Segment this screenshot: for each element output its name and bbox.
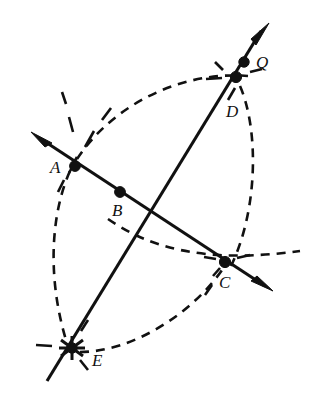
arc-e-to-c bbox=[80, 270, 222, 352]
arc-stub-a-upright bbox=[102, 108, 111, 120]
arc-stub-a-up bbox=[62, 92, 66, 104]
arc-stub-e-left bbox=[36, 345, 52, 346]
geometry-figure: A B C D E Q bbox=[0, 0, 314, 399]
arc-stub-c-left bbox=[204, 257, 216, 259]
line-abc-arrow-end bbox=[251, 276, 273, 291]
arc-stub-a-upright2 bbox=[85, 131, 94, 147]
point-label-b: B bbox=[112, 202, 122, 219]
line-edq bbox=[47, 31, 261, 381]
arc-stub-c-upright bbox=[237, 255, 250, 258]
line-edq-arrow-start bbox=[251, 23, 269, 45]
point-label-e: E bbox=[92, 352, 102, 369]
arc-a-to-d bbox=[69, 75, 248, 173]
point-marker-d bbox=[230, 71, 241, 82]
arc-stub-d-down bbox=[228, 88, 235, 100]
point-marker-e bbox=[59, 336, 85, 360]
arc-a-to-e bbox=[54, 157, 77, 340]
line-abc-arrow-start bbox=[31, 132, 52, 147]
point-marker-c bbox=[219, 256, 230, 267]
arc-b-to-c-right bbox=[108, 219, 300, 256]
point-marker-a bbox=[70, 161, 81, 172]
arc-stub-e-downright bbox=[80, 360, 88, 370]
arc-stub-d-left bbox=[206, 78, 222, 79]
point-marker-q bbox=[239, 57, 249, 67]
point-label-c: C bbox=[219, 274, 230, 291]
point-marker-b bbox=[115, 187, 126, 198]
arc-stub-d-upleft bbox=[215, 62, 223, 70]
point-label-a: A bbox=[50, 159, 60, 176]
point-label-q: Q bbox=[256, 54, 268, 71]
point-label-d: D bbox=[226, 103, 238, 120]
arc-stub-a-upper bbox=[69, 117, 73, 132]
